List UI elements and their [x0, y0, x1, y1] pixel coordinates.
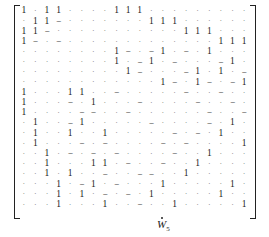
matrix-cell: ·	[204, 169, 216, 179]
matrix-cell: −	[180, 138, 192, 148]
matrix-cell: ·	[99, 98, 111, 108]
matrix-cell: ·	[146, 149, 158, 159]
matrix-cell: −	[122, 47, 134, 57]
matrix-cell: 1	[64, 88, 76, 98]
matrix-cell: ·	[99, 108, 111, 118]
matrix-cell: ·	[99, 37, 111, 47]
matrix-cell: ·	[88, 77, 100, 87]
matrix-cell: ·	[134, 179, 146, 189]
matrix-cell: ·	[134, 77, 146, 87]
matrix-cell: ·	[64, 189, 76, 199]
matrix-cell: −	[111, 149, 123, 159]
matrix-cell: ·	[88, 57, 100, 67]
matrix-cell: ·	[76, 16, 88, 26]
matrix-cell: ·	[157, 67, 169, 77]
matrix-cell: ·	[215, 16, 227, 26]
matrix-cell: −	[134, 67, 146, 77]
matrix-cell: −	[64, 98, 76, 108]
matrix-cell: ·	[53, 26, 65, 36]
matrix-cell: ·	[99, 6, 111, 16]
matrix-cell: ·	[134, 138, 146, 148]
matrix-cell: ·	[99, 179, 111, 189]
matrix-label-base: W	[157, 218, 166, 230]
matrix-cell: ·	[238, 98, 250, 108]
matrix-cell: −	[192, 98, 204, 108]
matrix-cell: ·	[122, 118, 134, 128]
matrix-cell: 1	[41, 6, 53, 16]
matrix-cell: −	[157, 138, 169, 148]
matrix-cell: ·	[64, 47, 76, 57]
matrix-cell: ·	[18, 47, 30, 57]
matrix-cell: −	[134, 169, 146, 179]
matrix-cell: −	[134, 200, 146, 210]
matrix-cell: ·	[88, 47, 100, 57]
matrix-cell: 1	[192, 159, 204, 169]
matrix-cell: −	[238, 67, 250, 77]
matrix-cell: −	[146, 169, 158, 179]
matrix-cell: ·	[215, 6, 227, 16]
matrix-cell: ·	[180, 98, 192, 108]
matrix-cell: 1	[88, 159, 100, 169]
matrix-cell: 1	[227, 118, 239, 128]
matrix-cell: ·	[30, 77, 42, 87]
matrix-cell: ·	[18, 16, 30, 26]
matrix-cell: 1	[192, 26, 204, 36]
matrix-cell: ·	[157, 200, 169, 210]
matrix-cell: 1	[53, 200, 65, 210]
matrix-cell: ·	[88, 200, 100, 210]
matrix-cell: ·	[169, 47, 181, 57]
matrix-cell: −	[99, 169, 111, 179]
matrix-cell: ·	[111, 67, 123, 77]
matrix-cell: 1	[111, 6, 123, 16]
matrix-cell: ·	[30, 179, 42, 189]
matrix-cell: ·	[215, 138, 227, 148]
matrix-cell: ·	[122, 138, 134, 148]
matrix-cell: ·	[134, 37, 146, 47]
matrix-cell: ·	[30, 149, 42, 159]
matrix-cell: ·	[53, 57, 65, 67]
matrix-cell: ·	[180, 200, 192, 210]
matrix-cell: 1	[88, 179, 100, 189]
matrix-cell: −	[111, 88, 123, 98]
matrix-cell: ·	[18, 118, 30, 128]
matrix-cell: ·	[204, 159, 216, 169]
matrix-cell: ·	[76, 159, 88, 169]
matrix-cell: 1	[30, 138, 42, 148]
matrix-cell: ·	[41, 57, 53, 67]
matrix-cell: 1	[41, 16, 53, 26]
matrix-cell: ·	[134, 88, 146, 98]
matrix-cell: 1	[180, 26, 192, 36]
matrix-cell: ·	[41, 47, 53, 57]
matrix-cell: ·	[41, 37, 53, 47]
matrix-cell: ·	[169, 179, 181, 189]
matrix-cell: ·	[122, 128, 134, 138]
matrix-cell: −	[41, 26, 53, 36]
matrix-cell: ·	[111, 26, 123, 36]
matrix-cell: ·	[111, 189, 123, 199]
matrix-cell: 1	[76, 88, 88, 98]
matrix-cell: ·	[122, 149, 134, 159]
matrix-cell: ·	[227, 169, 239, 179]
matrix-cell: ·	[53, 67, 65, 77]
matrix-cell: 1	[204, 26, 216, 36]
matrix-cell: ·	[157, 57, 169, 67]
matrix-cell: ·	[64, 77, 76, 87]
matrix-cell: ·	[238, 169, 250, 179]
matrix-cell: ·	[76, 6, 88, 16]
matrix-cell: −	[238, 108, 250, 118]
matrix-cell: −	[204, 77, 216, 87]
matrix-cell: ·	[53, 128, 65, 138]
matrix-cell: ·	[122, 98, 134, 108]
matrix-cell: 1	[215, 128, 227, 138]
matrix-cell: ·	[18, 189, 30, 199]
matrix-cell: −	[192, 128, 204, 138]
matrix-cell: ·	[146, 179, 158, 189]
matrix-cell: −	[169, 77, 181, 87]
matrix-cell: ·	[41, 179, 53, 189]
matrix-cell: ·	[41, 189, 53, 199]
right-bracket	[250, 5, 256, 219]
matrix-cell: ·	[18, 149, 30, 159]
matrix-cell: ·	[134, 47, 146, 57]
matrix-cell: ·	[192, 179, 204, 189]
matrix-cell: ·	[192, 108, 204, 118]
